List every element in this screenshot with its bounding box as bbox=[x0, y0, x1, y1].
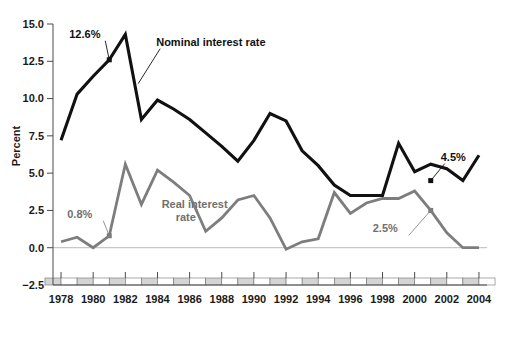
annotation-point-marker bbox=[428, 208, 433, 213]
axis-band-plain bbox=[61, 278, 77, 285]
y-axis-title: Percent bbox=[10, 125, 22, 166]
axis-band-plain bbox=[415, 278, 431, 285]
annotation-label: Real interestrate bbox=[162, 198, 228, 223]
axis-band-plain bbox=[350, 278, 366, 285]
y-axis-tick-label: 2.5 bbox=[29, 204, 44, 216]
axis-band-shaded bbox=[141, 278, 157, 285]
axis-band-shaded bbox=[77, 278, 93, 285]
axis-band-plain bbox=[190, 278, 206, 285]
annotation-label: 4.5% bbox=[441, 151, 466, 163]
x-axis-tick-label: 1988 bbox=[210, 293, 234, 305]
axis-band-plain bbox=[222, 278, 238, 285]
annotation-label-line: rate bbox=[176, 211, 196, 223]
axis-band-shaded bbox=[366, 278, 382, 285]
axis-band-plain bbox=[125, 278, 141, 285]
axis-band-shaded bbox=[399, 278, 415, 285]
data-series-group bbox=[61, 34, 479, 249]
axis-lines-and-ticks bbox=[47, 24, 487, 285]
annotation-group: 12.6%Nominal interest rate0.8%Real inter… bbox=[67, 28, 466, 238]
x-axis-tick-label: 1982 bbox=[113, 293, 137, 305]
y-axis-tick-labels: −2.50.02.55.07.510.012.515.0 bbox=[22, 18, 44, 291]
axis-band-shaded bbox=[463, 278, 479, 285]
x-axis-tick-label: 1984 bbox=[145, 293, 170, 305]
y-axis-tick-label: −2.5 bbox=[22, 279, 44, 291]
axis-band-shaded bbox=[109, 278, 125, 285]
axis-band-plain bbox=[318, 278, 334, 285]
x-axis-tick-label: 1978 bbox=[49, 293, 73, 305]
axis-band-shaded bbox=[431, 278, 447, 285]
axis-band-plain bbox=[254, 278, 270, 285]
axis-band-shaded bbox=[270, 278, 286, 285]
y-axis-tick-label: 0.0 bbox=[29, 242, 44, 254]
annotation-point-marker bbox=[107, 57, 112, 62]
x-axis-tick-label: 2004 bbox=[467, 293, 492, 305]
y-axis-tick-label: 10.0 bbox=[23, 92, 44, 104]
annotation-point-marker bbox=[428, 178, 433, 183]
annotation-leader-line bbox=[138, 49, 160, 84]
axis-band-shaded bbox=[334, 278, 350, 285]
annotation-leader-line bbox=[409, 210, 431, 235]
axis-band-shaded bbox=[206, 278, 222, 285]
x-axis-tick-label: 1980 bbox=[81, 293, 105, 305]
y-axis-tick-label: 12.5 bbox=[23, 55, 44, 67]
axis-band-plain bbox=[383, 278, 399, 285]
annotation-label: Nominal interest rate bbox=[156, 36, 265, 48]
x-axis-tick-label: 1992 bbox=[274, 293, 298, 305]
axis-band-plain bbox=[447, 278, 463, 285]
axis-band-shaded bbox=[302, 278, 318, 285]
x-axis-tick-label: 1994 bbox=[306, 293, 331, 305]
x-axis-tick-label: 1998 bbox=[370, 293, 394, 305]
y-axis-tick-label: 15.0 bbox=[23, 18, 44, 30]
x-axis-tick-label: 1986 bbox=[177, 293, 201, 305]
axis-band-plain bbox=[479, 278, 495, 285]
x-axis-tick-label: 1996 bbox=[338, 293, 362, 305]
axis-band-plain bbox=[93, 278, 109, 285]
x-axis-tick-label: 2000 bbox=[402, 293, 426, 305]
y-axis-tick-label: 7.5 bbox=[29, 130, 44, 142]
annotation-leader-line bbox=[105, 41, 109, 60]
annotation-label-line: Real interest bbox=[162, 198, 228, 210]
axis-band-plain bbox=[286, 278, 302, 285]
annotation-label: 0.8% bbox=[67, 208, 92, 220]
series-line-real bbox=[61, 164, 479, 249]
axis-band-shaded bbox=[238, 278, 254, 285]
x-axis-tick-label: 2002 bbox=[435, 293, 459, 305]
axis-band-shaded bbox=[174, 278, 190, 285]
chart-container: −2.50.02.55.07.510.012.515.0 19781980198… bbox=[0, 0, 509, 338]
axis-band-plain bbox=[157, 278, 173, 285]
annotation-label: 2.5% bbox=[373, 222, 398, 234]
annotation-label: 12.6% bbox=[69, 28, 100, 40]
annotation-point-marker bbox=[107, 233, 112, 238]
x-axis-band-strip bbox=[45, 278, 495, 285]
x-axis-tick-labels: 1978198019821984198619881990199219941996… bbox=[49, 293, 492, 305]
y-axis-tick-label: 5.0 bbox=[29, 167, 44, 179]
x-axis-tick-label: 1990 bbox=[242, 293, 266, 305]
interest-rate-line-chart: −2.50.02.55.07.510.012.515.0 19781980198… bbox=[0, 0, 509, 338]
